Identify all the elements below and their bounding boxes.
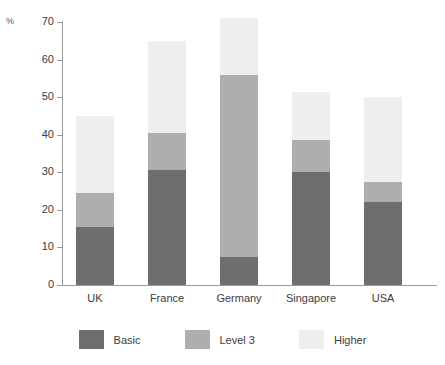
bar-segment-higher [292, 92, 330, 141]
y-axis-tick: 30 [18, 172, 62, 173]
bar-segment-basic [220, 257, 258, 285]
bar-segment-higher [148, 41, 186, 133]
y-tick-mark [57, 60, 62, 61]
legend-swatch-icon [79, 330, 104, 349]
bars-layer [62, 18, 437, 286]
y-tick-label: 0 [20, 277, 54, 292]
legend-label: Level 3 [220, 334, 255, 346]
y-axis-tick: 40 [18, 135, 62, 136]
y-axis-tick: 50 [18, 97, 62, 98]
y-tick-label: 40 [20, 127, 54, 142]
bar-group [148, 41, 186, 285]
y-axis-tick: 0 [18, 285, 62, 286]
y-tick-mark [57, 97, 62, 98]
stacked-bar-chart: % 010203040506070 UKFranceGermanySingapo… [0, 0, 445, 365]
bar-segment-basic [76, 227, 114, 285]
y-axis-tick: 60 [18, 60, 62, 61]
legend-item-higher[interactable]: Higher [299, 330, 366, 349]
bar-segment-higher [220, 18, 258, 74]
bar-group [220, 18, 258, 285]
legend-label: Basic [114, 334, 141, 346]
y-tick-mark [57, 247, 62, 248]
bar-segment-basic [148, 170, 186, 285]
bar-segment-higher [364, 97, 402, 182]
y-tick-label: 70 [20, 14, 54, 29]
bar-group [364, 97, 402, 285]
x-axis-label-usa: USA [335, 292, 431, 304]
bar-segment-level-3 [148, 133, 186, 171]
y-tick-label: 20 [20, 202, 54, 217]
bar-segment-level-3 [76, 193, 114, 227]
bar-group [292, 92, 330, 285]
legend-swatch-icon [299, 330, 324, 349]
y-tick-label: 50 [20, 89, 54, 104]
y-axis-tick: 10 [18, 247, 62, 248]
plot-area [62, 18, 437, 286]
y-tick-mark [57, 22, 62, 23]
y-tick-mark [57, 172, 62, 173]
y-tick-label: 10 [20, 239, 54, 254]
bar-group [76, 116, 114, 285]
y-tick-mark [57, 135, 62, 136]
legend-item-basic[interactable]: Basic [79, 330, 141, 349]
bar-segment-level-3 [220, 75, 258, 257]
bar-segment-basic [364, 202, 402, 285]
y-axis-tick: 70 [18, 22, 62, 23]
y-axis-tick: 20 [18, 210, 62, 211]
bar-segment-basic [292, 172, 330, 285]
bar-segment-higher [76, 116, 114, 193]
legend-swatch-icon [185, 330, 210, 349]
bar-segment-level-3 [292, 140, 330, 172]
legend-label: Higher [334, 334, 366, 346]
y-tick-label: 30 [20, 164, 54, 179]
y-tick-mark [57, 285, 62, 286]
y-tick-label: 60 [20, 52, 54, 67]
legend-item-level-3[interactable]: Level 3 [185, 330, 255, 349]
y-axis-unit-label: % [6, 16, 14, 26]
chart-legend: BasicLevel 3Higher [0, 330, 445, 349]
y-tick-mark [57, 210, 62, 211]
bar-segment-level-3 [364, 182, 402, 203]
